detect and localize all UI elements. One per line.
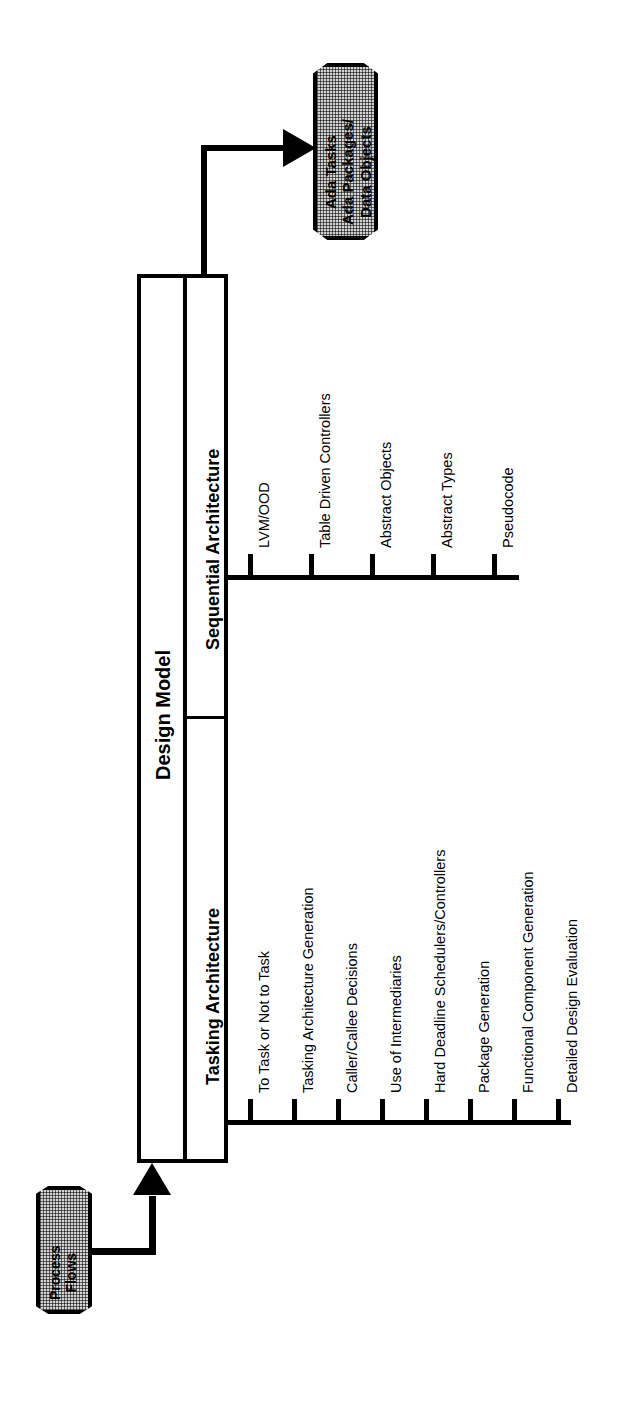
- sequential-architecture-label: Sequential Architecture: [203, 449, 224, 650]
- input-connector-vertical: [149, 1196, 156, 1255]
- tasking-item-label: Detailed Design Evaluation: [564, 919, 580, 1093]
- output-line-3: Data Objects: [357, 119, 374, 225]
- sequential-item-label: Abstract Types: [439, 452, 455, 548]
- tasking-item-tick: [468, 1099, 473, 1121]
- sequential-item-tick: [370, 554, 375, 576]
- output-line-2: Ada Packages/: [339, 119, 356, 225]
- output-terminator-label: Ada Tasks Ada Packages/ Data Objects: [322, 119, 374, 225]
- tasking-item-tick: [336, 1099, 341, 1121]
- tasking-comb-trunk: [228, 1120, 571, 1125]
- tasking-item-label: Package Generation: [476, 961, 492, 1093]
- output-connector-vertical: [201, 145, 207, 277]
- tasking-item-tick: [380, 1099, 385, 1121]
- sequential-item-tick: [431, 554, 436, 576]
- input-line-2: Flows: [63, 1246, 79, 1300]
- tasking-item-tick: [512, 1099, 517, 1121]
- sequential-item-tick: [248, 554, 253, 576]
- output-connector-horizontal: [201, 145, 287, 151]
- tasking-item-label: Tasking Architecture Generation: [300, 887, 316, 1093]
- architecture-section-divider: [183, 716, 228, 719]
- tasking-item-tick: [248, 1099, 253, 1121]
- tasking-item-label: To Task or Not to Task: [256, 951, 272, 1093]
- diagram-canvas: Ada Tasks Ada Packages/ Data Objects Des…: [0, 0, 629, 1401]
- sequential-item-label: Table Driven Controllers: [317, 393, 333, 548]
- input-arrowhead-icon: [133, 1163, 171, 1195]
- tasking-item-label: Functional Component Generation: [520, 871, 536, 1093]
- tasking-item-tick: [292, 1099, 297, 1121]
- tasking-item-label: Caller/Callee Decisions: [344, 943, 360, 1093]
- output-line-1: Ada Tasks: [322, 119, 339, 225]
- design-model-label: Design Model: [152, 650, 175, 780]
- sequential-item-tick: [309, 554, 314, 576]
- tasking-item-label: Hard Deadline Schedulers/Controllers: [432, 850, 448, 1093]
- sequential-item-tick: [492, 554, 497, 576]
- output-arrowhead-icon: [283, 129, 316, 167]
- input-line-1: Process: [47, 1246, 63, 1300]
- input-terminator-label: Process Flows: [47, 1246, 79, 1300]
- tasking-architecture-label: Tasking Architecture: [203, 908, 224, 1085]
- sequential-item-label: Pseudocode: [500, 467, 516, 548]
- tasking-item-tick: [556, 1099, 561, 1121]
- tasking-item-label: Use of Intermediaries: [388, 955, 404, 1093]
- sequential-item-label: Abstract Objects: [378, 442, 394, 548]
- sequential-item-label: LVM/OOD: [256, 482, 272, 548]
- input-connector-horizontal: [90, 1248, 156, 1255]
- tasking-item-tick: [424, 1099, 429, 1121]
